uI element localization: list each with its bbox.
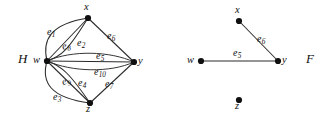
edge-label-subscript: 2 [82, 42, 86, 50]
edge-label-base: e [107, 30, 111, 41]
edge-label-H-e2: e2 [77, 38, 85, 48]
edge-label-base: e [96, 50, 100, 61]
edge-label-base: e [53, 91, 57, 102]
edge-label-H-e7: e7 [105, 79, 113, 89]
edge-label-base: e [47, 26, 51, 37]
edge-label-subscript: 1 [52, 31, 56, 39]
vertex-label-H-z: z [86, 104, 90, 115]
edge-label-subscript: 5 [101, 55, 105, 63]
edge-label-H-e3: e3 [53, 92, 61, 102]
edge-label-subscript: 5 [238, 52, 242, 60]
edge-label-subscript: 3 [58, 96, 62, 104]
vertex-F-y [275, 58, 281, 64]
vertex-label-H-y: y [138, 56, 143, 67]
edge-label-subscript: 7 [110, 83, 114, 91]
vertex-F-w [198, 58, 204, 64]
edge-label-H-e6: e6 [107, 31, 115, 41]
vertex-H-w [44, 58, 50, 64]
vertex-F-x [236, 18, 242, 24]
edge-label-base: e [94, 66, 98, 77]
vertex-label-H-x: x [84, 2, 89, 13]
vertex-label-H-w: w [33, 55, 40, 66]
edge-label-F-e5: e5 [233, 48, 241, 58]
edge-label-subscript: 6 [262, 38, 266, 46]
graph-label-F: F [306, 52, 314, 65]
vertex-label-F-x: x [235, 5, 240, 16]
edge-label-base: e [233, 47, 237, 58]
graph-canvas [0, 0, 329, 124]
vertex-label-F-y: y [282, 55, 287, 66]
vertex-H-y [131, 59, 137, 65]
edge-label-base: e [105, 78, 109, 89]
edge-H-wy-straight [47, 61, 134, 62]
figure-container: H w x y z e1 e8 e2 e6 e5 e10 e9 e4 e3 e7… [0, 0, 329, 124]
edge-label-base: e [78, 77, 82, 88]
edge-label-H-e1: e1 [47, 27, 55, 37]
edge-label-F-e6: e6 [257, 34, 265, 44]
edge-label-base: e [257, 33, 261, 44]
vertex-label-F-z: z [235, 101, 239, 112]
edge-label-subscript: 4 [83, 82, 87, 90]
edge-label-H-e10: e10 [94, 67, 106, 77]
vertex-H-x [85, 15, 91, 21]
vertex-label-F-w: w [187, 55, 194, 66]
edge-label-base: e [77, 37, 81, 48]
edge-label-subscript: 6 [112, 35, 116, 43]
edge-label-H-e5: e5 [96, 51, 104, 61]
graph-H-edges [45, 18, 134, 103]
graph-label-H: H [18, 52, 27, 65]
edge-label-H-e4: e4 [78, 78, 86, 88]
